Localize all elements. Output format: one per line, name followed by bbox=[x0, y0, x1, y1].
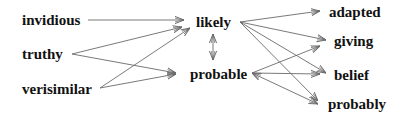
node-probably: probably bbox=[328, 96, 387, 112]
node-adapted: adapted bbox=[329, 4, 381, 20]
node-giving: giving bbox=[334, 33, 374, 49]
node-belief: belief bbox=[334, 67, 370, 83]
arrow-verisimilar-to-likely bbox=[100, 28, 190, 88]
arrow-truthy-to-probable bbox=[72, 54, 176, 73]
arrow-truthy-to-likely bbox=[72, 27, 182, 54]
node-truthy: truthy bbox=[22, 46, 63, 62]
nodes-group: invidious truthy verisimilar likely prob… bbox=[22, 4, 387, 112]
arrow-probable-to-probably bbox=[252, 73, 318, 104]
arrow-likely-to-adapted bbox=[240, 11, 320, 22]
node-probable: probable bbox=[190, 66, 248, 82]
word-graph-diagram: invidious truthy verisimilar likely prob… bbox=[0, 0, 404, 119]
arrow-probable-to-belief bbox=[252, 73, 320, 74]
node-verisimilar: verisimilar bbox=[22, 81, 92, 97]
node-likely: likely bbox=[196, 14, 232, 30]
arrow-likely-to-giving bbox=[240, 22, 326, 40]
arrow-verisimilar-to-probable bbox=[100, 74, 176, 88]
node-invidious: invidious bbox=[22, 12, 81, 28]
